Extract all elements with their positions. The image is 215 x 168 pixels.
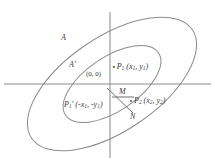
p1-prime-coord-open: (-x: [73, 100, 84, 109]
point-marker-p2: [130, 100, 132, 102]
label-point-p1: · P1 (x1, y1): [112, 63, 148, 72]
diagram-canvas: [0, 0, 215, 168]
p1-prime-coord-close: ): [100, 100, 103, 109]
label-point-p1-prime: P1' (-x1, -y1): [64, 101, 103, 110]
p2-coord-mid: , y: [153, 96, 161, 105]
p2-coord-close: ): [163, 96, 166, 105]
ellipse-diagram: A A' (0, 0) · P1 (x1, y1) P1' (-x1, -y1)…: [0, 0, 215, 168]
label-point-p2: P2 (x2, y2): [134, 97, 166, 106]
p1-coord-open: (x: [124, 62, 132, 71]
label-outer-curve: A: [61, 34, 66, 42]
p1-coord-close: ): [146, 62, 149, 71]
label-point-n: N: [130, 113, 135, 121]
label-origin: (0, 0): [86, 71, 101, 78]
label-point-m: M: [119, 88, 126, 96]
p1-prime-coord-mid: , -y: [87, 100, 97, 109]
p1-coord-mid: , y: [135, 62, 143, 71]
label-inner-curve: A': [69, 61, 76, 69]
p2-coord-open: (x: [142, 96, 150, 105]
